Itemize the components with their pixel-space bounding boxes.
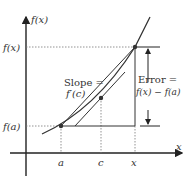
function-curve (42, 17, 150, 134)
point-c (99, 96, 103, 100)
point-a (59, 124, 63, 128)
y-axis-label: f(x) (30, 14, 48, 25)
error-label-line1: Error = (138, 74, 177, 85)
mvt-diagram: f(x) x f(x) f(a) a c x Slope = f′(c) Err… (0, 0, 188, 179)
slope-label-line1: Slope = (64, 77, 104, 88)
y-tick-fx: f(x) (2, 42, 20, 53)
point-x (133, 45, 137, 49)
x-tick-a: a (58, 157, 64, 168)
guide-lines (26, 47, 135, 153)
error-label-line2: f(x) − f(a) (135, 87, 181, 97)
slope-label-line2: f′(c) (65, 88, 85, 99)
x-tick-c: c (98, 157, 104, 168)
x-axis-label: x (176, 141, 182, 152)
x-tick-x: x (131, 157, 137, 168)
y-tick-fa: f(a) (2, 121, 21, 132)
